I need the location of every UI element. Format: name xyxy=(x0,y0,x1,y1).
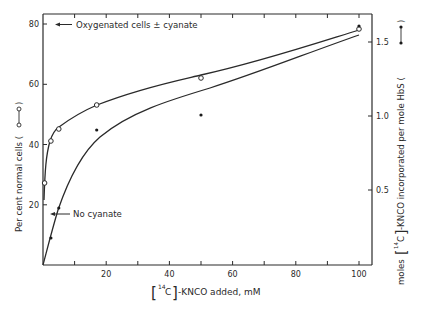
data-point-filled xyxy=(199,113,202,116)
x-tick-label: 80 xyxy=(291,270,301,279)
data-point-filled xyxy=(95,128,98,131)
data-point-open xyxy=(49,139,54,144)
y-left-label-close-paren: ) xyxy=(14,102,24,105)
y-right-label-element: C xyxy=(396,236,406,242)
data-point-open xyxy=(199,76,204,81)
annotation-oxygenated: Oxygenated cells ± cyanate xyxy=(55,20,198,30)
y-right-label-bracket-open: [ xyxy=(393,250,409,255)
x-tick-label: 40 xyxy=(164,270,174,279)
y-left-tick-labels: 20 40 60 80 xyxy=(29,20,39,210)
y-left-tick-label: 40 xyxy=(29,141,39,150)
y-right-tick-label: 0.5 xyxy=(376,186,389,195)
series-moles-incorporated xyxy=(49,24,360,239)
curve-moles-incorporated xyxy=(43,35,359,265)
x-label-bracket-open: [ xyxy=(151,284,157,302)
chart-container: 20 40 60 80 100 20 40 60 80 0.5 1.0 1.5 xyxy=(0,0,423,309)
x-label-rest: -KNCO added, mM xyxy=(178,287,261,297)
y-left-label-text: Per cent normal cells ( xyxy=(14,136,24,232)
y-right-label-close-paren: ) xyxy=(396,20,406,23)
open-circle-legend-icon xyxy=(17,107,21,127)
data-point-filled xyxy=(357,24,360,27)
x-ticks xyxy=(75,14,359,265)
y-left-tick-label: 60 xyxy=(29,80,39,89)
y-right-label-pre: moles xyxy=(396,259,406,285)
x-axis-label: [ 14 C ] -KNCO added, mM xyxy=(151,283,261,302)
series-percent-normal-cells xyxy=(42,27,361,186)
data-point-open xyxy=(42,181,47,186)
x-tick-label: 20 xyxy=(101,270,111,279)
y-left-tick-label: 80 xyxy=(29,20,39,29)
y-right-tick-labels: 0.5 1.0 1.5 xyxy=(376,38,389,195)
data-point-filled xyxy=(57,206,60,209)
annotation-no-cyanate: No cyanate xyxy=(50,209,122,219)
y-right-label-rest: -KNCO incorporated per mole HbS ( xyxy=(396,77,406,230)
x-label-bracket-close: ] xyxy=(172,284,178,302)
data-point-filled xyxy=(49,236,52,239)
filled-circle-legend-icon xyxy=(399,25,402,44)
data-point-open xyxy=(57,127,62,132)
x-tick-labels: 20 40 60 80 100 xyxy=(101,270,367,279)
y-right-tick-label: 1.0 xyxy=(376,112,389,121)
x-tick-label: 100 xyxy=(351,270,366,279)
data-point-open xyxy=(94,103,99,108)
arrowhead-icon xyxy=(50,212,55,216)
y-right-tick-label: 1.5 xyxy=(376,38,389,47)
y-left-axis-label: Per cent normal cells ( ) xyxy=(14,102,24,232)
arrowhead-icon xyxy=(55,23,60,27)
y-right-axis-label: moles [ 14 C ] -KNCO incorporated per mo… xyxy=(393,20,409,285)
y-left-tick-label: 20 xyxy=(29,201,39,210)
annotation-oxygenated-label: Oxygenated cells ± cyanate xyxy=(76,20,198,30)
x-tick-label: 60 xyxy=(228,270,238,279)
x-label-element: C xyxy=(165,287,171,297)
annotation-no-cyanate-label: No cyanate xyxy=(73,209,122,219)
plot-frame xyxy=(43,14,372,265)
